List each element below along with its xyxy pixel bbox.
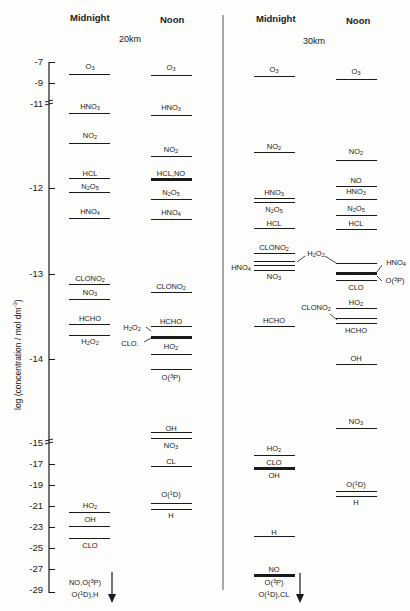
- species-label: NO,O(3P): [62, 578, 108, 587]
- species-label: HCL,NO: [151, 169, 191, 178]
- species-label: HCL: [254, 219, 294, 228]
- y-axis-label-exponent: -3: [12, 302, 18, 307]
- level-line: [69, 324, 110, 325]
- level-line: [336, 272, 377, 275]
- level-line: [336, 323, 377, 324]
- species-label: N2O5: [254, 205, 294, 214]
- tick: [49, 548, 55, 549]
- species-label: O3: [254, 65, 294, 74]
- tick: [49, 464, 55, 465]
- y-axis-label: log (concentration / mol dm-3): [12, 299, 23, 410]
- level-line: [151, 326, 192, 327]
- altitude-20km: 20km: [119, 34, 141, 44]
- level-line: [151, 199, 192, 200]
- tick-label: -17: [13, 458, 43, 469]
- species-label: CLO.: [118, 339, 142, 348]
- level-line: [254, 536, 295, 537]
- y-axis-label-text: log (concentration / mol dm: [13, 307, 23, 410]
- species-label: HO2: [336, 298, 376, 307]
- species-label: O3: [70, 62, 110, 71]
- level-line: [336, 308, 377, 309]
- y-axis-label-close: ): [13, 299, 23, 302]
- tick-label: -27: [13, 563, 43, 574]
- header-20km-noon: Noon: [160, 14, 184, 25]
- species-label: OH: [70, 515, 110, 524]
- species-label: OH: [336, 354, 376, 363]
- tick: [49, 83, 55, 84]
- species-label: HNO3: [336, 187, 376, 196]
- header-20km-midnight: Midnight: [70, 12, 110, 23]
- tick-label: -19: [13, 479, 43, 490]
- tick-label: -13: [13, 268, 43, 279]
- species-label: O3: [336, 67, 376, 76]
- tick-label: -29: [13, 584, 43, 595]
- species-label: CLONO2: [151, 282, 191, 291]
- level-line: [254, 202, 295, 203]
- level-line: [336, 160, 377, 161]
- tick-label: -7: [13, 56, 43, 67]
- species-label: CLONO2: [298, 303, 334, 312]
- level-line: [336, 79, 377, 80]
- level-line: [336, 215, 377, 216]
- tick: [49, 592, 55, 593]
- level-line: [69, 178, 110, 179]
- level-line: [151, 75, 192, 76]
- level-line: [151, 438, 192, 439]
- species-label: CLO: [254, 458, 294, 467]
- level-line: [69, 192, 110, 193]
- level-line: [69, 143, 110, 144]
- species-label: CLO: [336, 283, 376, 292]
- level-line: [336, 428, 377, 429]
- species-label: HCHO: [70, 314, 110, 323]
- level-line: [69, 526, 110, 527]
- level-line: [336, 280, 377, 281]
- level-line: [254, 253, 295, 254]
- level-line: [151, 503, 192, 504]
- species-label: O(1D),H: [62, 590, 108, 599]
- level-line: [336, 318, 377, 319]
- species-label: HNO3: [70, 102, 110, 111]
- level-line: [151, 432, 192, 433]
- tick: [49, 188, 55, 189]
- species-label: HNO3: [254, 188, 294, 197]
- species-label: O(1D): [151, 490, 191, 499]
- species-label: NO: [254, 565, 294, 574]
- tick-label: -9: [13, 77, 43, 88]
- species-label: H2O2: [304, 249, 328, 258]
- species-label: H: [151, 511, 191, 520]
- species-label: N2O5: [151, 188, 191, 197]
- species-label: HNO4: [70, 207, 110, 216]
- species-label: HNO4: [151, 208, 191, 217]
- species-label: O(3P): [254, 578, 294, 587]
- species-label: HCHO: [336, 326, 376, 335]
- level-line: [336, 229, 377, 230]
- level-line: [151, 219, 192, 220]
- species-label: CLONO2: [70, 274, 110, 283]
- species-label: N2O5: [70, 182, 110, 191]
- species-label: CLONO2: [254, 243, 294, 252]
- species-label: HCL: [336, 219, 376, 228]
- header-30km-noon: Noon: [346, 15, 370, 26]
- tick-label: -23: [13, 521, 43, 532]
- species-label: HO2: [151, 342, 191, 351]
- species-label: HCL: [70, 169, 110, 178]
- altitude-30km: 30km: [303, 36, 325, 46]
- species-label: NO3: [151, 441, 191, 450]
- level-line: [254, 326, 295, 327]
- tick-label: -15: [13, 437, 43, 448]
- level-line: [254, 455, 295, 456]
- species-label: NO2: [70, 131, 110, 140]
- level-line: [69, 299, 110, 300]
- tick: [49, 62, 55, 63]
- level-line: [336, 199, 377, 200]
- tick: [49, 359, 55, 360]
- species-label: NO2: [254, 142, 294, 151]
- level-line: [336, 263, 377, 264]
- species-label: NO3: [336, 417, 376, 426]
- tick-label: -25: [13, 542, 43, 553]
- level-line: [151, 369, 192, 370]
- species-label: NO2: [151, 145, 191, 154]
- level-line: [69, 113, 110, 114]
- tick: [49, 274, 55, 275]
- tick: [49, 527, 55, 528]
